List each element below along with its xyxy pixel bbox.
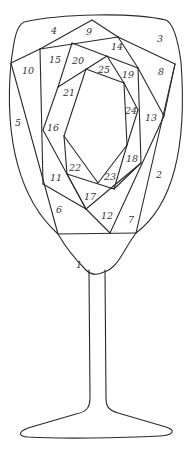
- piece-label-11: 11: [50, 172, 62, 183]
- piece-label-18: 18: [126, 153, 138, 164]
- piece-label-19: 19: [122, 69, 134, 80]
- piece-label-25: 25: [97, 64, 110, 75]
- piece-label-10: 10: [22, 65, 34, 76]
- piece-label-5: 5: [15, 117, 21, 128]
- piece-label-15: 15: [49, 54, 61, 65]
- wine-glass-pattern-diagram: 1 2 3 4 5 6 7 8 9 10 11 12 13 14 15 16 1…: [0, 0, 193, 462]
- piece-label-12: 12: [101, 210, 113, 221]
- piece-label-8: 8: [158, 66, 164, 77]
- piece-label-16: 16: [47, 122, 59, 133]
- piece-label-21: 21: [62, 87, 75, 98]
- piece-label-24: 24: [124, 105, 137, 116]
- piece-label-9: 9: [86, 26, 92, 37]
- stem-outline: [21, 270, 173, 438]
- piece-labels: 1 2 3 4 5 6 7 8 9 10 11 12 13 14 15 16 1…: [15, 25, 164, 270]
- piece-label-17: 17: [84, 191, 97, 202]
- piece-lines: [11, 20, 175, 234]
- piece-label-4: 4: [50, 25, 57, 36]
- piece-label-22: 22: [68, 162, 81, 173]
- piece-label-3: 3: [157, 33, 163, 44]
- piece-label-14: 14: [111, 41, 123, 52]
- piece-label-23: 23: [103, 171, 116, 182]
- piece-label-2: 2: [155, 169, 162, 180]
- piece-label-7: 7: [128, 214, 135, 225]
- piece-label-1: 1: [76, 259, 82, 270]
- piece-label-20: 20: [71, 55, 84, 66]
- piece-label-13: 13: [145, 112, 157, 123]
- piece-label-6: 6: [56, 204, 62, 215]
